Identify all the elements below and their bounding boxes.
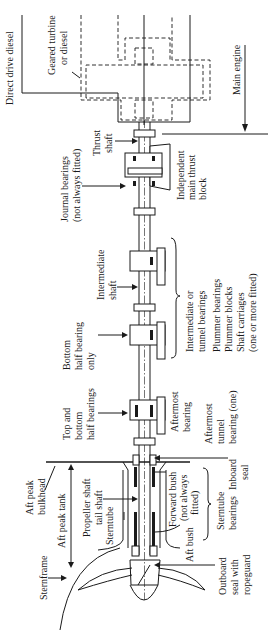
svg-text:Aftermost: Aftermost (169, 391, 180, 432)
label-bottom-half-bearing: Bottom half bearing only (61, 322, 96, 370)
propeller (78, 560, 205, 600)
svg-text:Plummer bearings: Plummer bearings (211, 279, 222, 352)
svg-text:bearing: bearing (181, 402, 192, 432)
sternframe-arrow-icon (61, 575, 67, 581)
svg-text:Aft bush: Aft bush (184, 527, 195, 562)
thrust-block (125, 144, 170, 190)
svg-text:Intermediate or: Intermediate or (184, 290, 195, 352)
outboard-seal-arrow-icon (154, 562, 160, 568)
label-thrust-shaft: Thrust shaft (91, 130, 114, 156)
plummer-bearing-2 (130, 322, 165, 359)
label-sternframe: Sternframe (38, 555, 49, 600)
tunnel-bearings-brace (171, 238, 180, 358)
svg-text:bulkhead: bulkhead (36, 478, 47, 515)
svg-text:tail shaft: tail shaft (93, 490, 104, 525)
label-plummer-bearings: Plummer bearings Plummer blocks Shaft ca… (211, 273, 259, 352)
aft-peak-tank-arrow-top-icon (68, 464, 74, 470)
aft-coupling (134, 438, 155, 445)
svg-text:block: block (197, 178, 208, 200)
label-sterntube-bearings: Sterntube bearings (215, 491, 238, 530)
label-aftermost-bearing: Aftermost bearing (169, 391, 192, 432)
plummer-bearing-1 (130, 248, 165, 285)
svg-text:seal with: seal with (229, 559, 240, 595)
label-aft-peak-tank: Aft peak tank (56, 494, 67, 548)
svg-text:Main engine: Main engine (231, 44, 242, 95)
label-sterntube: Sterntube (104, 506, 115, 545)
label-aft-peak-bulkhead: Aft peak bulkhead (24, 478, 47, 515)
thrust-shaft-arrow-icon (132, 138, 138, 144)
svg-text:Aftermost: Aftermost (203, 403, 214, 444)
svg-text:Forward bush: Forward bush (167, 472, 178, 527)
svg-text:Aft peak: Aft peak (24, 480, 35, 515)
svg-text:Geared turbine: Geared turbine (46, 15, 57, 75)
thrust-shaft-coupling (134, 130, 155, 137)
sterntube-bearings-brace (203, 468, 211, 540)
svg-text:Propeller shaft: Propeller shaft (81, 478, 92, 537)
label-geared-turbine: Geared turbine or diesel (46, 15, 69, 75)
svg-text:tunnel: tunnel (215, 419, 226, 444)
svg-text:Sternframe: Sternframe (38, 555, 49, 600)
svg-text:(one or more fitted): (one or more fitted) (247, 273, 259, 352)
bulkhead-pointer (45, 466, 55, 490)
label-tunnel-bearings: Intermediate or tunnel bearings (184, 290, 207, 352)
svg-text:Plummer blocks: Plummer blocks (223, 287, 234, 352)
svg-text:Bottom: Bottom (61, 340, 72, 370)
main-engine-arrow-icon (242, 124, 248, 132)
svg-text:Top and: Top and (61, 408, 72, 440)
svg-text:seal: seal (239, 464, 250, 480)
aft-peak-tank-arrow-bottom-icon (68, 562, 74, 568)
svg-text:main thrust: main thrust (186, 155, 197, 200)
label-top-bottom-half-bearings: Top and bottom half bearings (61, 388, 96, 440)
bottom-half-arrow-icon (122, 332, 128, 338)
aftermost-tunnel-bearing (130, 397, 165, 434)
label-aftermost-tunnel-bearing: Aftermost tunnel bearing (one) (203, 390, 239, 444)
svg-text:half bearing: half bearing (73, 322, 84, 370)
propeller-shaft-arrow-icon (132, 496, 138, 502)
geared-turbine-outline (81, 15, 210, 120)
svg-text:or diesel: or diesel (58, 31, 69, 65)
svg-text:fitted): fitted) (189, 491, 201, 515)
svg-text:Inboard: Inboard (227, 459, 238, 490)
geared-turbine-pointer (72, 72, 80, 78)
svg-text:ropeguard: ropeguard (241, 554, 252, 595)
svg-text:(not always fitted): (not always fitted) (71, 149, 83, 222)
label-inboard-seal: Inboard seal (227, 459, 250, 490)
svg-text:Independent: Independent (175, 150, 186, 200)
svg-text:Intermediate: Intermediate (95, 249, 106, 300)
intermediate-shaft-arrow-icon (132, 284, 138, 290)
svg-text:Thrust: Thrust (91, 130, 102, 156)
svg-text:Direct drive diesel: Direct drive diesel (4, 31, 15, 105)
top-bottom-arrow-icon (122, 410, 128, 416)
svg-text:Sterntube: Sterntube (104, 506, 115, 545)
svg-text:Outboard: Outboard (217, 557, 228, 595)
label-propeller-shaft: Propeller shaft tail shaft (81, 478, 104, 537)
svg-text:bearing (one): bearing (one) (227, 390, 239, 444)
propeller-shafting-diagram: Direct drive diesel Geared turbine or di… (0, 0, 268, 630)
sternframe (60, 548, 120, 630)
svg-text:bottom: bottom (73, 411, 84, 440)
svg-text:shaft: shaft (107, 280, 118, 300)
svg-text:only: only (85, 352, 96, 370)
label-aft-bush: Aft bush (184, 527, 195, 562)
intermediate-coupling-1 (134, 208, 155, 215)
svg-text:Aft peak tank: Aft peak tank (56, 494, 67, 548)
svg-text:tunnel bearings: tunnel bearings (196, 291, 207, 352)
label-direct-drive-diesel: Direct drive diesel (4, 31, 15, 105)
svg-text:Sterntube: Sterntube (215, 491, 226, 530)
svg-text:half bearings: half bearings (85, 388, 96, 440)
label-independent-thrust-block: Independent main thrust block (175, 150, 208, 200)
intermediate-coupling-2 (134, 304, 155, 311)
label-intermediate-shaft: Intermediate shaft (95, 249, 118, 300)
label-forward-bush: Forward bush (not always fitted) (167, 472, 201, 527)
label-outboard-seal: Outboard seal with ropeguard (217, 554, 252, 595)
svg-text:bearings: bearings (227, 496, 238, 530)
label-journal-bearings: Journal bearings (not always fitted) (59, 149, 83, 222)
svg-text:shaft: shaft (103, 133, 114, 153)
svg-text:Shaft carriages: Shaft carriages (235, 292, 246, 352)
label-main-engine: Main engine (231, 44, 242, 95)
journal-bearings-arrow-icon (120, 183, 126, 189)
svg-text:Journal bearings: Journal bearings (59, 156, 70, 222)
